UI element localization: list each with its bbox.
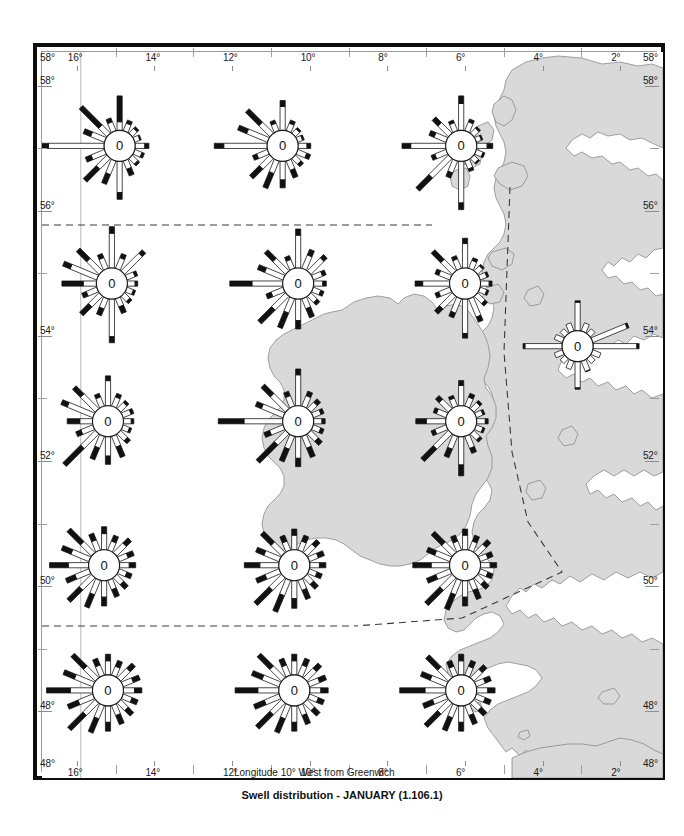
- corner-label-top-left: 58°: [40, 52, 55, 63]
- x-tick-mark: [387, 66, 388, 71]
- rose-arm-shaft: [525, 344, 562, 349]
- y-tick-58deg: 58°: [643, 75, 658, 86]
- rose-arm-shaft: [102, 534, 107, 550]
- rose-arm-shaft: [252, 281, 283, 286]
- corner-label-top-right: 58°: [643, 52, 658, 63]
- rose-calm-value: 0: [116, 138, 123, 153]
- x-tick-mark: [77, 761, 78, 766]
- rose-arm-cap: [218, 419, 244, 424]
- rose-arm-shaft: [459, 661, 464, 675]
- y-minor-tick: [38, 273, 47, 274]
- rose-arm-cap: [280, 100, 285, 106]
- rose-arm-shaft: [477, 688, 488, 693]
- rose-arm-cap: [109, 337, 114, 343]
- rose-arm-shaft: [459, 386, 464, 406]
- rose-arm-shaft: [135, 143, 145, 148]
- rose-arm-cap: [462, 333, 467, 338]
- rose-arm-shaft: [292, 581, 297, 599]
- y-minor-tick: [38, 148, 47, 149]
- rose-calm-value: 0: [108, 276, 115, 291]
- corner-label-bottom-right: 48°: [643, 758, 658, 769]
- x-tick-mark: [77, 66, 78, 71]
- x-minor-tick: [504, 48, 505, 57]
- rose-calm-value: 0: [100, 558, 107, 573]
- rose-arm-shaft: [70, 688, 92, 693]
- x-tick-4deg: 4°: [534, 52, 543, 63]
- rose-arm-cap: [62, 281, 83, 286]
- x-minor-tick: [193, 765, 194, 774]
- rose-calm-value: 0: [104, 683, 111, 698]
- rose-arm-shaft: [481, 563, 491, 568]
- rose-arm-cap: [105, 722, 110, 731]
- rose-arm-shaft: [123, 688, 134, 693]
- rose-arm-shaft: [117, 161, 122, 192]
- x-tick-mark: [465, 761, 466, 766]
- rose-arm-cap: [523, 344, 525, 349]
- rose-arm-cap: [321, 688, 328, 693]
- rose-arm-cap: [109, 227, 114, 234]
- rose-arm-cap: [489, 281, 492, 286]
- rose-arm-cap: [416, 419, 426, 424]
- rose-arm-shaft: [411, 143, 446, 148]
- x-axis-title: Longitude 10° West from Greenwich: [234, 767, 395, 778]
- rose-arm-cap: [400, 688, 425, 693]
- x-tick-10deg: 10°: [301, 52, 316, 63]
- rose-arm-shaft: [102, 581, 107, 597]
- rose-arm-shaft: [68, 563, 88, 568]
- x-tick-mark: [620, 66, 621, 71]
- x-minor-tick: [581, 765, 582, 774]
- x-minor-tick: [426, 765, 427, 774]
- rose-calm-value: 0: [291, 683, 298, 698]
- map-canvas: 0000000000000000: [42, 52, 663, 778]
- x-tick-mark: [387, 761, 388, 766]
- rose-arm-shaft: [296, 235, 301, 268]
- rose-arm-cap: [292, 599, 297, 609]
- rose-arm-shaft: [459, 161, 464, 203]
- x-tick-2deg: 2°: [611, 52, 620, 63]
- rose-arm-shaft: [314, 281, 323, 286]
- rose-arm-shaft: [423, 281, 450, 286]
- y-minor-tick: [650, 148, 659, 149]
- rose-arm-cap: [102, 597, 107, 606]
- rose-arm-cap: [145, 143, 149, 148]
- rose-calm-value: 0: [295, 276, 302, 291]
- rose-arm-cap: [105, 376, 110, 381]
- rose-arm-shaft: [462, 299, 467, 333]
- rose-arm-cap: [487, 143, 493, 148]
- map-svg: 0000000000000000: [42, 52, 663, 778]
- rose-arm-shaft: [258, 688, 279, 693]
- rose-arm-cap: [490, 563, 496, 568]
- rose-arm-shaft: [105, 706, 110, 722]
- rose-arm-shaft: [296, 437, 301, 459]
- rose-arm-cap: [462, 597, 467, 606]
- y-tick-mark: [38, 711, 52, 712]
- rose-arm-shaft: [292, 535, 297, 549]
- x-tick-mark: [232, 66, 233, 71]
- x-tick-mark: [154, 66, 155, 71]
- rose-arm-cap: [292, 654, 297, 661]
- y-tick-50deg: 50°: [643, 575, 658, 586]
- y-minor-tick: [650, 273, 659, 274]
- x-tick-mark: [543, 66, 544, 71]
- y-tick-mark: [38, 586, 52, 587]
- rose-arm-shaft: [477, 143, 487, 148]
- rose-arm-shaft: [462, 535, 467, 549]
- rose-arm-shaft: [314, 419, 322, 424]
- y-minor-tick: [650, 398, 659, 399]
- rose-arm-cap: [292, 722, 297, 731]
- x-tick-mark: [465, 66, 466, 71]
- rose-arm-shaft: [109, 299, 114, 337]
- rose-arm-cap: [105, 456, 110, 464]
- rose-arm-shaft: [298, 143, 307, 148]
- rose-arm-cap: [230, 281, 252, 286]
- rose-arm-shaft: [292, 706, 297, 722]
- rose-calm-value: 0: [461, 276, 468, 291]
- y-tick-58deg: 58°: [40, 75, 55, 86]
- rose-arm-shaft: [120, 563, 130, 568]
- rose-arm-cap: [575, 388, 580, 389]
- rose-arm-cap: [235, 688, 258, 693]
- rose-arm-shaft: [310, 563, 320, 568]
- x-tick-mark: [154, 761, 155, 766]
- y-tick-52deg: 52°: [643, 450, 658, 461]
- y-tick-54deg: 54°: [643, 325, 658, 336]
